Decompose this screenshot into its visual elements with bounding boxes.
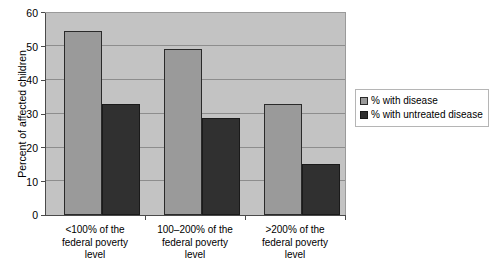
legend: % with disease % with untreated disease <box>355 89 489 127</box>
plot-area <box>45 12 346 216</box>
x-category-line-3: level <box>37 249 153 262</box>
x-category-label-100-200: 100–200% of the federal poverty level <box>137 224 253 262</box>
legend-label-untreated-disease: % with untreated disease <box>371 109 483 121</box>
legend-item-disease: % with disease <box>360 94 483 108</box>
y-tick-label-40: 40 <box>4 75 38 86</box>
legend-swatch-icon-disease <box>360 97 368 105</box>
x-axis-tick-1 <box>145 216 146 220</box>
bar-untreated-100-200 <box>202 118 240 215</box>
y-tick-label-20: 20 <box>4 143 38 154</box>
bar-untreated-under-100 <box>102 104 140 215</box>
x-category-line-3: level <box>137 249 253 262</box>
y-tick-label-0: 0 <box>4 210 38 221</box>
x-category-label-under-100: <100% of the federal poverty level <box>37 224 153 262</box>
bar-disease-over-200 <box>264 104 302 215</box>
x-axis-tick-2 <box>245 216 246 220</box>
legend-label-disease: % with disease <box>371 95 438 107</box>
y-tick-label-60: 60 <box>4 8 38 19</box>
x-category-label-over-200: >200% of the federal poverty level <box>237 224 353 262</box>
x-category-line-1: <100% of the <box>37 224 153 237</box>
y-tick-label-30: 30 <box>4 109 38 120</box>
y-axis-tick-labels: 60 50 40 30 20 10 0 <box>0 0 38 270</box>
bar-disease-under-100 <box>64 31 102 215</box>
x-category-line-1: >200% of the <box>237 224 353 237</box>
legend-swatch-icon-untreated-disease <box>360 111 368 119</box>
x-category-line-2: federal poverty <box>137 237 253 250</box>
y-tick-label-50: 50 <box>4 42 38 53</box>
legend-item-untreated-disease: % with untreated disease <box>360 108 483 122</box>
y-tick-label-10: 10 <box>4 177 38 188</box>
plot-frame-top-edge <box>45 12 346 13</box>
x-category-line-2: federal poverty <box>237 237 353 250</box>
x-category-line-1: 100–200% of the <box>137 224 253 237</box>
x-axis-tick-3 <box>345 216 346 220</box>
bar-disease-100-200 <box>164 49 202 215</box>
bar-untreated-over-200 <box>302 164 340 215</box>
bar-chart: Percent of affected children 60 50 40 30… <box>0 0 492 270</box>
plot-frame-right-edge <box>345 12 346 215</box>
x-category-line-2: federal poverty <box>37 237 153 250</box>
x-category-line-3: level <box>237 249 353 262</box>
